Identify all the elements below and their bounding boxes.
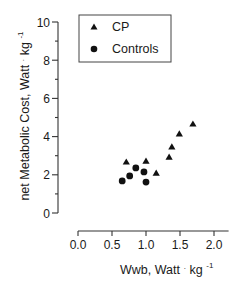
x-axis-title-main: Wwb, Watt <box>120 263 180 277</box>
svg-text:Wwb, Watt · kg: Wwb, Watt · kg -1 <box>120 260 214 277</box>
triangle-marker-icon <box>176 130 183 136</box>
triangle-marker-icon <box>123 158 130 164</box>
x-axis: 0.00.51.01.52.0 <box>70 231 229 252</box>
circle-marker-icon <box>91 46 98 53</box>
y-axis-title-unit: kg <box>18 42 32 55</box>
y-axis-title: net Metabolic Cost, Watt · kg -1 <box>15 31 32 201</box>
y-axis: 0246810 <box>37 16 58 221</box>
x-tick-label: 1.0 <box>138 238 155 252</box>
triangle-marker-icon <box>153 169 160 175</box>
x-axis-title-exp: -1 <box>206 261 214 270</box>
y-tick-label: 2 <box>43 168 50 182</box>
x-tick-label: 0.0 <box>70 238 87 252</box>
y-tick-label: 6 <box>43 92 50 106</box>
y-axis-title-dot: · <box>19 59 28 62</box>
x-axis-title-dot: · <box>183 264 186 273</box>
x-axis-title: Wwb, Watt · kg -1 <box>120 260 214 277</box>
data-points <box>119 120 197 185</box>
triangle-marker-icon <box>166 153 173 159</box>
scatter-chart: 0246810 0.00.51.01.52.0 CP Controls net … <box>0 0 238 284</box>
x-axis-title-unit: kg <box>190 263 203 277</box>
y-axis-title-main: net Metabolic Cost, Watt <box>18 64 32 200</box>
triangle-marker-icon <box>168 143 175 149</box>
circle-marker-icon <box>143 179 150 186</box>
circle-marker-icon <box>119 178 126 185</box>
x-tick-label: 1.5 <box>172 238 189 252</box>
legend-label-cp: CP <box>112 20 129 34</box>
circle-marker-icon <box>132 165 139 172</box>
y-axis-title-exp: -1 <box>16 31 25 39</box>
x-tick-label: 2.0 <box>206 238 223 252</box>
svg-text:net Metabolic Cost, Watt: net Metabolic Cost, Watt · kg -1 <box>15 31 32 201</box>
legend-label-controls: Controls <box>112 42 159 56</box>
circle-marker-icon <box>126 173 133 180</box>
triangle-marker-icon <box>142 157 149 163</box>
y-tick-label: 4 <box>43 130 50 144</box>
y-tick-label: 0 <box>43 207 50 221</box>
legend: CP Controls <box>79 15 171 62</box>
series-controls <box>119 165 150 186</box>
triangle-marker-icon <box>189 120 196 126</box>
circle-marker-icon <box>141 169 148 176</box>
y-tick-label: 8 <box>43 54 50 68</box>
x-tick-label: 0.5 <box>104 238 121 252</box>
y-tick-label: 10 <box>37 16 51 30</box>
